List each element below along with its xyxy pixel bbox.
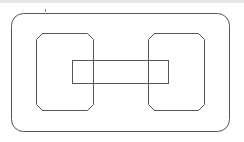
connector-bar [73,61,169,84]
left-chamfered-box [37,34,94,111]
diagram-canvas [0,0,244,142]
outer-rounded-rect [12,14,230,132]
right-chamfered-box [149,34,205,111]
